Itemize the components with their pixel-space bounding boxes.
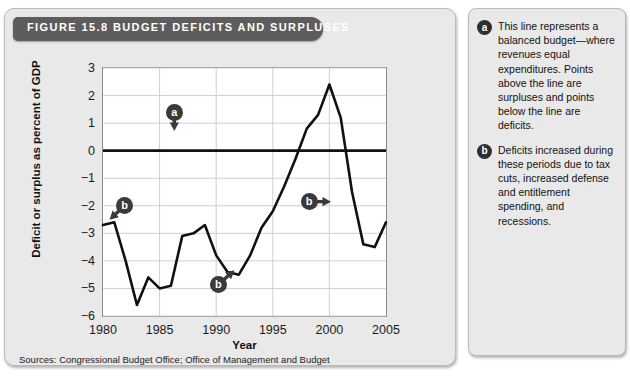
x-axis-tick-label: 1990 [202, 323, 230, 337]
plot-wrapper: Deficit or surplus as percent of GDP 321… [5, 45, 457, 335]
chart-callout-badge-b: b [210, 276, 227, 293]
y-axis-tick-label: 1 [88, 116, 95, 130]
y-axis-tick-label: −5 [81, 281, 95, 295]
figure-title-bar: FIGURE 15.8 BUDGET DEFICITS AND SURPLUSE… [13, 17, 323, 41]
note-item: bDeficits increased during these periods… [477, 143, 617, 228]
figure-screenshot: FIGURE 15.8 BUDGET DEFICITS AND SURPLUSE… [0, 0, 630, 386]
x-axis-tick-label: 2005 [372, 323, 400, 337]
y-axis-tick-label: −1 [81, 171, 95, 185]
y-axis-title: Deficit or surplus as percent of GDP [30, 44, 42, 274]
y-axis-tick-label: 0 [88, 144, 95, 158]
x-axis-tick-label: 1985 [146, 323, 174, 337]
plot-area: 3210−1−2−3−4−5−6198019851990199520002005… [102, 67, 387, 317]
note-item: aThis line represents a balanced budget—… [477, 19, 617, 133]
callout-arrow-right-icon [103, 68, 386, 316]
y-axis-tick-label: −2 [81, 199, 95, 213]
x-axis-tick-label: 1995 [259, 323, 287, 337]
note-badge-b: b [477, 144, 492, 159]
y-axis-tick-label: 3 [88, 61, 95, 75]
note-badge-a: a [477, 20, 492, 35]
x-axis-tick-label: 2000 [315, 323, 343, 337]
y-axis-tick-label: −3 [81, 226, 95, 240]
figure-sources: Sources: Congressional Budget Office; Of… [19, 354, 330, 365]
y-axis-tick-label: −6 [81, 309, 95, 323]
notes-panel: aThis line represents a balanced budget—… [468, 8, 626, 356]
figure-title: FIGURE 15.8 BUDGET DEFICITS AND SURPLUSE… [27, 21, 350, 33]
x-axis-title: Year [102, 339, 387, 351]
chart-callout-badge-a: a [166, 104, 183, 121]
note-text: This line represents a balanced budget—w… [498, 19, 617, 133]
note-text: Deficits increased during these periods … [498, 143, 617, 228]
chart-callout-badge-b: b [301, 193, 318, 210]
figure-panel: FIGURE 15.8 BUDGET DEFICITS AND SURPLUSE… [4, 8, 456, 366]
y-axis-tick-label: −4 [81, 254, 95, 268]
x-axis-tick-label: 1980 [89, 323, 117, 337]
y-axis-tick-label: 2 [88, 89, 95, 103]
